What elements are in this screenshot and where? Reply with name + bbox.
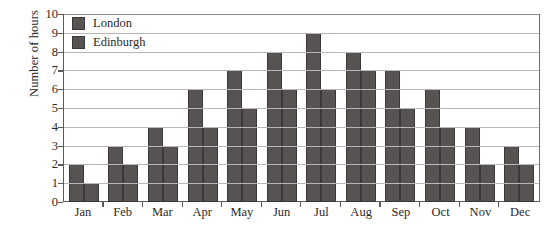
y-tick-label: 3 [36, 140, 58, 153]
y-tick-label: 9 [36, 27, 58, 40]
legend-swatch-london [72, 17, 85, 30]
y-tick-label: 10 [36, 8, 58, 21]
gridline [64, 89, 539, 90]
y-tick-mark [58, 202, 63, 203]
bar-london-dec [504, 146, 519, 202]
legend-swatch-edinburgh [72, 36, 85, 49]
y-tick-mark [58, 89, 63, 90]
legend-label-london: London [93, 17, 132, 30]
y-tick-label: 5 [36, 102, 58, 115]
x-tick-label-nov: Nov [461, 205, 501, 220]
gridline [64, 146, 539, 147]
y-tick-mark [58, 52, 63, 53]
legend: London Edinburgh [72, 17, 146, 49]
gridline [64, 52, 539, 53]
y-tick-label: 0 [36, 196, 58, 209]
y-tick-mark [58, 127, 63, 128]
y-tick-label: 4 [36, 121, 58, 134]
y-tick-mark [58, 146, 63, 147]
y-tick-mark [58, 33, 63, 34]
y-tick-mark [58, 108, 63, 109]
y-tick-label: 8 [36, 46, 58, 59]
x-tick-label-apr: Apr [182, 205, 222, 220]
y-tick-label: 6 [36, 83, 58, 96]
bar-london-feb [108, 146, 123, 202]
gridline [64, 108, 539, 109]
legend-label-edinburgh: Edinburgh [93, 36, 146, 49]
y-tick-mark [58, 70, 63, 71]
x-tick-label-may: May [222, 205, 262, 220]
bar-chart: Number of hours 109876543210 JanFebMarAp… [0, 0, 553, 235]
bar-edinburgh-jan [84, 183, 99, 202]
x-tick-label-feb: Feb [103, 205, 143, 220]
gridline [64, 14, 539, 15]
bar-edinburgh-may [242, 108, 257, 202]
x-tick-label-dec: Dec [500, 205, 540, 220]
x-tick-label-jul: Jul [302, 205, 342, 220]
x-tick-label-jun: Jun [262, 205, 302, 220]
y-tick-mark [58, 164, 63, 165]
x-tick-label-jan: Jan [63, 205, 103, 220]
bar-edinburgh-mar [163, 146, 178, 202]
x-tick-label-aug: Aug [341, 205, 381, 220]
y-tick-label: 7 [36, 64, 58, 77]
y-tick-label: 1 [36, 177, 58, 190]
y-tick-mark [58, 14, 63, 15]
x-tick-label-sep: Sep [381, 205, 421, 220]
x-axis-labels: JanFebMarAprMayJunJulAugSepOctNovDec [63, 205, 540, 220]
bar-london-jul [306, 33, 321, 202]
legend-item-london: London [72, 17, 146, 30]
y-tick-mark [58, 183, 63, 184]
gridline [64, 164, 539, 165]
legend-item-edinburgh: Edinburgh [72, 36, 146, 49]
gridline [64, 70, 539, 71]
x-tick-label-mar: Mar [143, 205, 183, 220]
y-tick-label: 2 [36, 158, 58, 171]
bar-edinburgh-sep [400, 108, 415, 202]
gridline [64, 183, 539, 184]
x-tick-label-oct: Oct [421, 205, 461, 220]
gridline [64, 127, 539, 128]
